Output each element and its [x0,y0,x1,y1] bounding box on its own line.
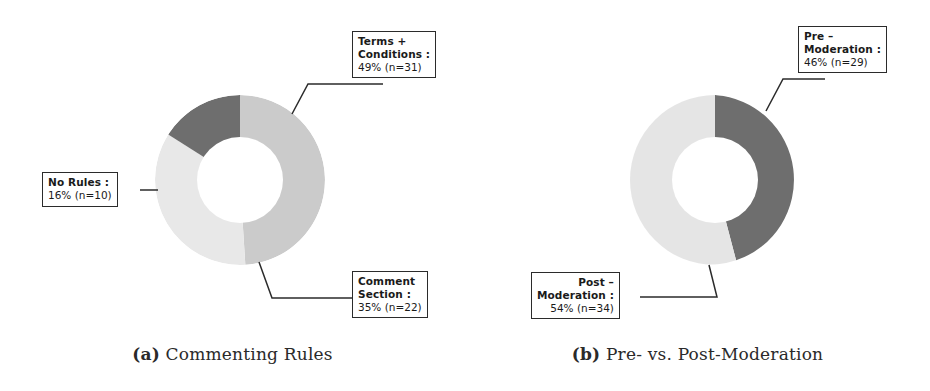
subfigure-caption-a: (a) Commenting Rules [0,344,465,364]
callout-line-3: 46% (n=29) [804,56,881,69]
caption-text: Commenting Rules [166,344,333,364]
subfigure-commenting-rules: Terms + Conditions : 49% (n=31) No Rules… [0,0,465,391]
subfigure-caption-b: (b) Pre- vs. Post-Moderation [465,344,930,364]
callout-line-3: 49% (n=31) [358,61,430,74]
caption-tag: (b) [572,344,601,364]
callout-comment-section: Comment Section : 35% (n=22) [352,271,428,318]
callout-line-2: Conditions : [358,48,430,61]
leader-line-terms-conditions [292,84,383,114]
subfigure-pre-vs-post-moderation: Pre – Moderation : 46% (n=29) Post – Mod… [465,0,930,391]
donut-segment-terms-conditions [240,95,325,265]
leader-line-pre-moderation [766,79,825,111]
callout-line-1: Post – [537,276,614,289]
callout-terms-conditions: Terms + Conditions : 49% (n=31) [352,31,436,78]
caption-text: Pre- vs. Post-Moderation [606,344,823,364]
callout-line-2: Section : [358,288,422,301]
callout-pre-moderation: Pre – Moderation : 46% (n=29) [798,26,887,73]
callout-post-moderation: Post – Moderation : 54% (n=34) [531,272,620,319]
callout-line-1: Comment [358,275,422,288]
callout-no-rules: No Rules : 16% (n=10) [42,172,118,207]
callout-line-1: Pre – [804,30,881,43]
caption-tag: (a) [132,344,160,364]
callout-line-3: 35% (n=22) [358,301,422,314]
figure-row: Terms + Conditions : 49% (n=31) No Rules… [0,0,930,391]
leader-line-post-moderation [640,265,717,297]
callout-line-2: 16% (n=10) [48,189,112,202]
callout-line-1: Terms + [358,35,430,48]
donut-chart-commenting-rules: Terms + Conditions : 49% (n=31) No Rules… [0,0,465,340]
callout-line-1: No Rules : [48,176,112,189]
callout-line-2: Moderation : [537,289,614,302]
callout-line-2: Moderation : [804,43,881,56]
donut-chart-pre-vs-post-moderation: Pre – Moderation : 46% (n=29) Post – Mod… [465,0,930,340]
callout-line-3: 54% (n=34) [537,302,614,315]
